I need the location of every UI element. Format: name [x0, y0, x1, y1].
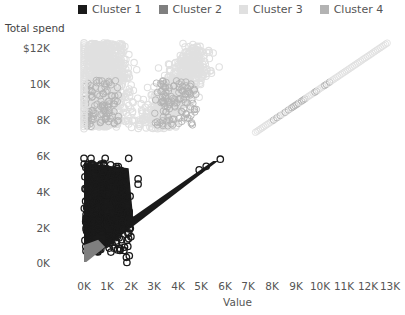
cluster-3-point [134, 67, 140, 73]
cluster-3-point [155, 65, 161, 71]
cluster-3-point [216, 64, 222, 70]
scatter-plot-area[interactable] [0, 0, 405, 315]
cluster-3-point [144, 84, 150, 90]
cluster-1-point [126, 155, 132, 161]
cluster-3-point [131, 59, 137, 65]
cluster-1-point [217, 156, 223, 162]
